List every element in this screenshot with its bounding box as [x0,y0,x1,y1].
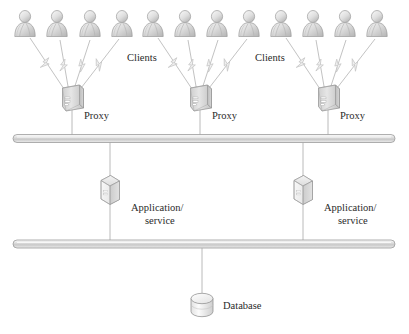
diagram-canvas: Clients Clients Proxy Proxy Proxy [0,0,409,334]
proxy-icon [63,85,84,111]
client-icon [80,11,100,37]
application-nodes [101,176,313,205]
database-label: Database [223,300,262,311]
clients-label-right: Clients [255,52,285,63]
application-label-right-line1: Application/ [324,202,377,213]
bus-lower [13,240,395,248]
proxy-label-2: Proxy [212,110,238,121]
client-icon [271,11,291,37]
application-service-icon [101,176,120,205]
application-label-right-line2: service [338,215,368,226]
proxy-icon [191,85,212,111]
application-service-icon [294,176,313,205]
client-icon [207,11,227,37]
client-icon [175,11,195,37]
client-icon [112,11,132,37]
client-icon [335,11,355,37]
application-label-left-line2: service [145,215,175,226]
proxy-bus-connectors [72,110,328,136]
proxy-label-1: Proxy [84,110,110,121]
client-icon [239,11,259,37]
bus-upper [13,135,395,143]
client-icon [367,11,387,37]
client-icon [143,11,163,37]
proxy-nodes [63,85,340,111]
clients-row [15,11,387,37]
application-label-left-line1: Application/ [131,202,184,213]
client-icon [303,11,323,37]
proxy-label-3: Proxy [340,110,366,121]
architecture-diagram: Clients Clients Proxy Proxy Proxy [0,0,409,334]
database-icon [191,293,213,316]
bus-app-connectors-upper [110,142,303,176]
clients-label-left: Clients [127,52,157,63]
proxy-icon [319,85,340,111]
client-icon [15,11,35,37]
client-icon [47,11,67,37]
